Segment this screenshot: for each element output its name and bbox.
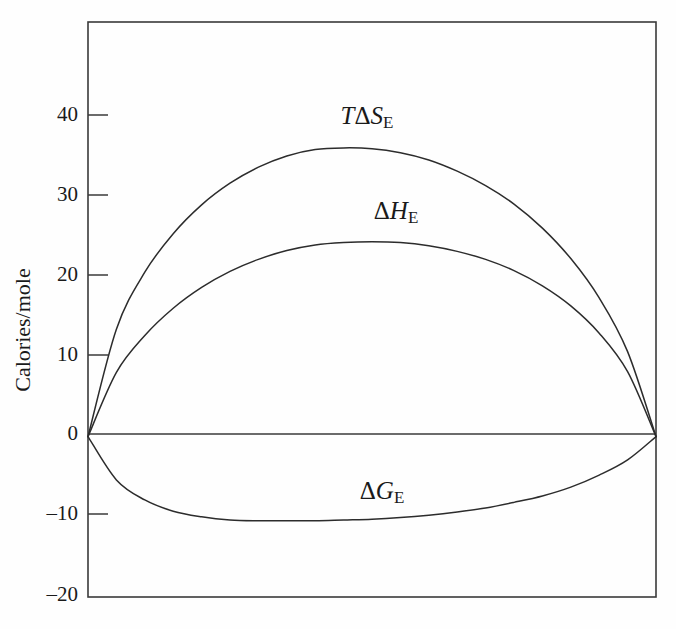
y-tick-label-10: 10	[57, 342, 78, 366]
y-tick-label-20: 20	[57, 262, 78, 286]
y-axis-title: Calories/mole	[10, 268, 35, 391]
label-tds-sub: E	[383, 113, 393, 132]
figure-container: 40 30 20 10 0 –10 –20 Calories/mole TΔSE…	[0, 0, 676, 629]
label-tds-delta: Δ	[354, 102, 370, 129]
y-tick-label-neg10: –10	[46, 501, 79, 525]
label-delta-g-excess: ΔGE	[360, 477, 405, 507]
label-dh-H: H	[389, 197, 410, 224]
y-tick-labels: 40 30 20 10 0 –10 –20	[46, 102, 79, 606]
label-delta-h-excess: ΔHE	[374, 197, 419, 227]
label-dg-sub: E	[394, 488, 404, 507]
label-tds-S: S	[371, 102, 384, 129]
y-tick-label-neg20: –20	[46, 582, 79, 606]
label-dg-G: G	[376, 477, 394, 504]
curve-delta-h-excess	[88, 242, 656, 437]
label-t-delta-s-excess: TΔSE	[341, 102, 394, 132]
label-dh-sub: E	[408, 208, 418, 227]
chart-canvas: 40 30 20 10 0 –10 –20 Calories/mole TΔSE…	[0, 0, 676, 629]
curve-t-delta-s-excess	[88, 148, 656, 437]
label-dg-delta: Δ	[360, 477, 376, 504]
label-dh-delta: Δ	[374, 197, 390, 224]
y-tick-label-0: 0	[68, 421, 79, 445]
y-tick-label-30: 30	[57, 182, 78, 206]
y-tick-label-40: 40	[57, 102, 78, 126]
